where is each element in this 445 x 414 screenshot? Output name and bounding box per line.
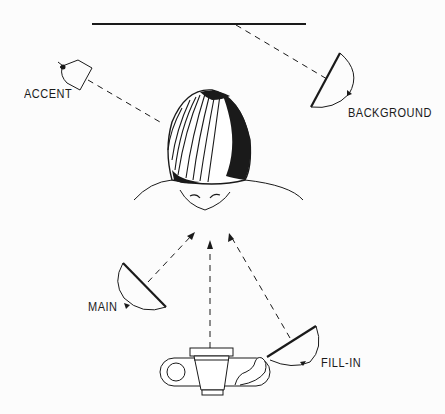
fill-in-label: FILL-IN [321, 355, 361, 369]
fill-in-lamp-icon [267, 326, 319, 366]
main-label: MAIN [88, 299, 118, 313]
arrowheads [187, 232, 234, 249]
accent-label: ACCENT [24, 86, 72, 100]
subject-head-icon [134, 90, 303, 210]
lighting-diagram: ACCENT BACKGROUND MAIN FILL-IN [0, 0, 445, 414]
camera-icon [160, 348, 270, 395]
lighting-diagram-drawing [0, 0, 445, 414]
background-label: BACKGROUND [348, 105, 432, 119]
background-lamp-icon [311, 53, 354, 107]
background-light-beam [236, 25, 327, 79]
beam-arrows [148, 235, 290, 348]
accent-light-beam [88, 80, 160, 122]
